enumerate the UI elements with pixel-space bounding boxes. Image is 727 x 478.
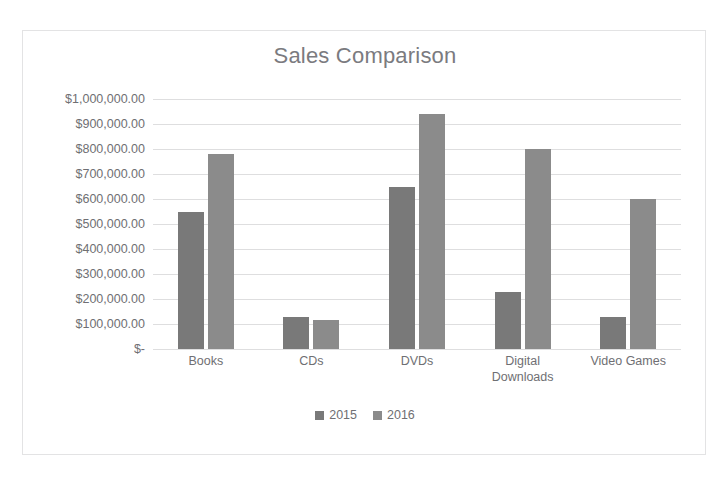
- y-axis-tick-label: $400,000.00: [23, 243, 145, 255]
- bar-2016-digital-downloads[interactable]: [525, 149, 551, 349]
- gridline: [153, 349, 681, 350]
- category-label: Books: [153, 353, 259, 369]
- clipped-top-text-content: · · · ·: [0, 0, 74, 4]
- legend-item-2015[interactable]: 2015: [315, 409, 357, 421]
- bar-2016-dvds[interactable]: [419, 114, 445, 349]
- chart-title: Sales Comparison: [23, 43, 707, 69]
- y-axis-tick-label: $800,000.00: [23, 143, 145, 155]
- bar-2015-dvds[interactable]: [389, 187, 415, 350]
- legend-label: 2016: [387, 409, 415, 421]
- y-axis-tick-label: $100,000.00: [23, 318, 145, 330]
- y-axis-tick-label: $600,000.00: [23, 193, 145, 205]
- legend-swatch-icon: [315, 411, 324, 420]
- legend-swatch-icon: [373, 411, 382, 420]
- bar-group-container: [153, 99, 681, 349]
- x-axis-category-labels: BooksCDsDVDsDigital DownloadsVideo Games: [153, 353, 681, 399]
- chart-legend: 20152016: [23, 409, 707, 421]
- category-label: Digital Downloads: [470, 353, 576, 385]
- y-axis-tick-label: $200,000.00: [23, 293, 145, 305]
- bar-2016-video-games[interactable]: [630, 199, 656, 349]
- y-axis-tick-label: $300,000.00: [23, 268, 145, 280]
- bar-2015-cds[interactable]: [283, 317, 309, 349]
- clipped-top-text: · · · ·: [0, 0, 727, 10]
- bar-2015-books[interactable]: [178, 212, 204, 350]
- bar-2015-video-games[interactable]: [600, 317, 626, 349]
- category-label: Video Games: [575, 353, 681, 369]
- y-axis-tick-label: $-: [23, 343, 145, 355]
- y-axis-tick-label: $700,000.00: [23, 168, 145, 180]
- bar-2016-books[interactable]: [208, 154, 234, 349]
- y-axis-tick-label: $500,000.00: [23, 218, 145, 230]
- category-label: CDs: [259, 353, 365, 369]
- legend-label: 2015: [329, 409, 357, 421]
- y-axis-labels: $1,000,000.00$900,000.00$800,000.00$700,…: [23, 99, 145, 349]
- bar-2016-cds[interactable]: [313, 320, 339, 349]
- y-axis-tick-label: $900,000.00: [23, 118, 145, 130]
- bar-2015-digital-downloads[interactable]: [495, 292, 521, 350]
- chart-card: Sales Comparison $1,000,000.00$900,000.0…: [22, 30, 706, 455]
- legend-item-2016[interactable]: 2016: [373, 409, 415, 421]
- category-label: DVDs: [364, 353, 470, 369]
- y-axis-tick-label: $1,000,000.00: [23, 93, 145, 105]
